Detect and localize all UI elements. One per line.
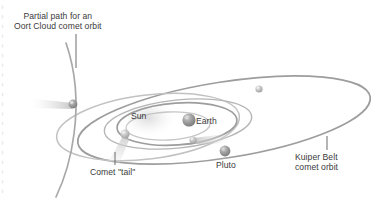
comet-icon-oort	[28, 98, 77, 109]
comet-icon-tail	[105, 129, 130, 172]
kuiper-comet-body-icon	[255, 85, 262, 92]
diagram-canvas: Partial path for anOort Cloud comet orbi…	[0, 0, 388, 201]
annotation-kuiper-line1: Kuiper Belt	[295, 152, 338, 162]
annotation-oort-line2: Oort Cloud comet orbit	[14, 21, 102, 31]
annotation-oort-cloud: Partial path for anOort Cloud comet orbi…	[14, 11, 102, 32]
pluto-sphere-icon	[220, 146, 231, 157]
annotation-kuiper-belt: Kuiper Beltcomet orbit	[295, 152, 338, 173]
label-pluto: Pluto	[216, 160, 236, 170]
earth-sphere-icon	[182, 113, 195, 126]
annotation-oort-line1: Partial path for an	[23, 11, 92, 21]
oort-comet-path	[56, 43, 76, 197]
annotation-comet-tail: Comet "tail"	[90, 167, 135, 177]
label-sun: Sun	[131, 111, 146, 121]
label-earth: Earth	[196, 116, 217, 126]
annotation-kuiper-line2: comet orbit	[295, 162, 338, 172]
